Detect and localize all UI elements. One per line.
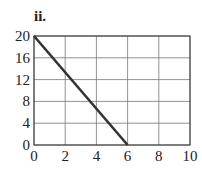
y-tick-label: 8: [23, 93, 31, 109]
x-tick-label: 10: [183, 148, 198, 164]
line-chart: 0246810 048121620: [0, 0, 202, 174]
y-tick-label: 12: [15, 72, 30, 88]
x-tick-label: 6: [124, 148, 132, 164]
x-tick-label: 4: [93, 148, 101, 164]
x-axis-ticks: 0246810: [30, 148, 197, 164]
y-axis-ticks: 048121620: [15, 28, 31, 153]
x-tick-label: 2: [61, 148, 69, 164]
series-line: [34, 36, 128, 145]
x-tick-label: 8: [155, 148, 163, 164]
y-tick-label: 16: [15, 50, 31, 66]
data-series: [34, 36, 128, 145]
x-tick-label: 0: [30, 148, 38, 164]
y-tick-label: 4: [23, 115, 31, 131]
y-tick-label: 0: [23, 137, 31, 153]
y-tick-label: 20: [15, 28, 30, 44]
